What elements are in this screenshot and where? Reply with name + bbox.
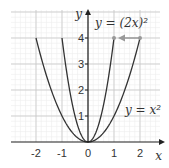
label-2x-squared: y = (2x)² bbox=[94, 16, 148, 30]
y-tick-label: 3 bbox=[78, 58, 84, 70]
chart: 1234-2-1012 xyy = (2x)²y = x² bbox=[0, 0, 169, 168]
y-tick-label: 2 bbox=[78, 84, 84, 96]
x-tick-label: -2 bbox=[31, 147, 41, 159]
y-tick-label: 1 bbox=[78, 110, 84, 122]
point bbox=[138, 36, 142, 40]
label-x-squared: y = x² bbox=[124, 103, 161, 117]
x-tick-label: 2 bbox=[137, 147, 143, 159]
x-tick-label: 0 bbox=[85, 147, 91, 159]
x-tick-label: -1 bbox=[57, 147, 67, 159]
x-axis-label: x bbox=[155, 149, 162, 163]
y-axis-label: y bbox=[74, 7, 82, 21]
x-tick-label: 1 bbox=[111, 147, 117, 159]
y-tick-label: 4 bbox=[78, 32, 84, 44]
point bbox=[112, 36, 116, 40]
x-axis-arrow-icon bbox=[159, 139, 165, 145]
